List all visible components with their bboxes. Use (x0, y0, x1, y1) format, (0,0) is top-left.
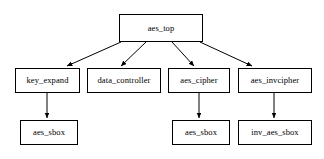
node-aes-sbox-cipher[interactable]: aes_sbox (172, 120, 230, 145)
node-label: aes_sbox (33, 128, 65, 137)
edge-aes_top-to-key_expand (67, 42, 121, 66)
aes-hierarchy-diagram: aes_top key_expand data_controller aes_c… (0, 0, 324, 159)
node-data-controller[interactable]: data_controller (87, 68, 161, 93)
node-aes-sbox-key-expand[interactable]: aes_sbox (20, 120, 78, 145)
node-key-expand[interactable]: key_expand (15, 68, 80, 93)
node-label: inv_aes_sbox (251, 128, 298, 137)
node-inv-aes-sbox[interactable]: inv_aes_sbox (238, 120, 312, 145)
node-label: aes_invcipher (251, 76, 300, 85)
edge-aes_top-to-aes_cipher (172, 42, 194, 66)
node-aes-top[interactable]: aes_top (119, 14, 203, 42)
node-label: aes_top (148, 24, 175, 33)
node-label: key_expand (26, 76, 68, 85)
edge-aes_top-to-data_controller (121, 42, 146, 66)
edge-aes_top-to-aes_invcipher (200, 42, 252, 66)
node-label: data_controller (98, 76, 151, 85)
node-label: aes_cipher (180, 76, 217, 85)
node-aes-invcipher[interactable]: aes_invcipher (238, 68, 312, 93)
node-aes-cipher[interactable]: aes_cipher (168, 68, 230, 93)
node-label: aes_sbox (185, 128, 217, 137)
